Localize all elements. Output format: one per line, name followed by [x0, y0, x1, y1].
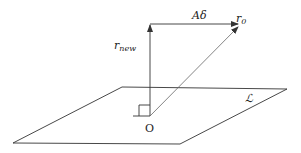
r-new-label: rnew: [114, 39, 136, 53]
plane-label: ℒ: [245, 92, 254, 105]
r0-label: r0: [236, 12, 246, 26]
a-delta-label: Aδ: [191, 9, 207, 22]
projection-diagram: Aδ r0 rnew ℒ O: [0, 0, 301, 153]
right-angle-marker: [133, 105, 150, 116]
r0-vector: [150, 27, 238, 116]
origin-label: O: [145, 122, 154, 135]
